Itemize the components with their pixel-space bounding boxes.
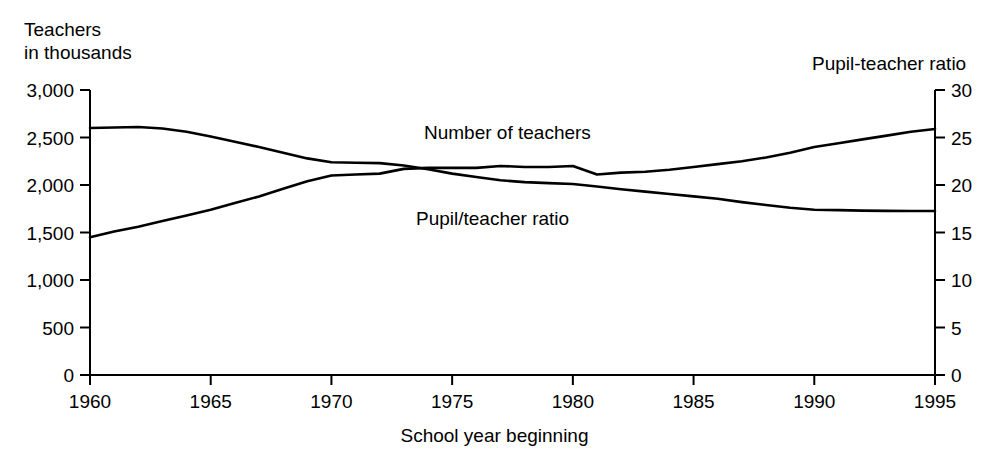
left-axis-tick-label: 1,000 xyxy=(26,270,74,291)
left-axis-tick-label: 1,500 xyxy=(26,223,74,244)
left-axis: 05001,0001,5002,0002,5003,000 xyxy=(26,80,90,386)
x-axis-tick-label: 1975 xyxy=(431,391,473,412)
series-line-number-of-teachers xyxy=(90,127,935,211)
right-axis-tick-label: 25 xyxy=(951,128,972,149)
chart-figure: Teachers in thousands Pupil-teacher rati… xyxy=(0,0,989,466)
x-axis-tick-label: 1995 xyxy=(914,391,956,412)
right-axis: 051015202530 xyxy=(935,80,972,386)
x-axis-tick-label: 1990 xyxy=(793,391,835,412)
left-axis-tick-label: 2,500 xyxy=(26,128,74,149)
right-axis-tick-label: 15 xyxy=(951,223,972,244)
right-axis-tick-label: 10 xyxy=(951,270,972,291)
right-axis-tick-label: 20 xyxy=(951,175,972,196)
x-axis-tick-label: 1965 xyxy=(190,391,232,412)
x-axis-tick-label: 1985 xyxy=(672,391,714,412)
left-axis-tick-label: 0 xyxy=(63,365,74,386)
x-axis-tick-label: 1970 xyxy=(310,391,352,412)
x-axis: 19601965197019751980198519901995 xyxy=(69,375,956,412)
right-axis-tick-label: 30 xyxy=(951,80,972,101)
left-axis-tick-label: 3,000 xyxy=(26,80,74,101)
left-axis-tick-label: 2,000 xyxy=(26,175,74,196)
plot-area: 05001,0001,5002,0002,5003,000 0510152025… xyxy=(0,0,989,466)
series-line-pupil-teacher-ratio xyxy=(90,129,935,237)
data-series-group xyxy=(90,127,935,237)
left-axis-tick-label: 500 xyxy=(42,318,74,339)
right-axis-tick-label: 5 xyxy=(951,318,962,339)
right-axis-tick-label: 0 xyxy=(951,365,962,386)
x-axis-tick-label: 1980 xyxy=(552,391,594,412)
x-axis-tick-label: 1960 xyxy=(69,391,111,412)
